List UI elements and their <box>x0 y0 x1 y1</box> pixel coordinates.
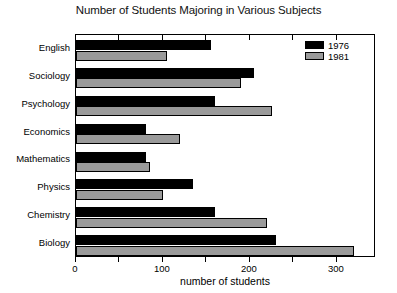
x-tick-300 <box>336 257 337 262</box>
bar-group <box>76 230 374 258</box>
bar-chart: Number of Students Majoring in Various S… <box>0 0 397 293</box>
chart-legend: 19761981 <box>305 40 371 64</box>
bar-group <box>76 147 374 175</box>
bar-group <box>76 63 374 91</box>
bar-sociology-1976 <box>76 68 254 78</box>
bar-economics-1976 <box>76 124 146 134</box>
y-label-mathematics: Mathematics <box>0 153 70 164</box>
bar-biology-1976 <box>76 235 276 245</box>
y-label-chemistry: Chemistry <box>0 209 70 220</box>
plot-area <box>75 34 375 257</box>
chart-title: Number of Students Majoring in Various S… <box>0 4 397 16</box>
legend-item-1976: 1976 <box>305 40 371 50</box>
x-tick-150 <box>205 257 206 262</box>
bar-english-1981 <box>76 51 167 61</box>
y-label-biology: Biology <box>0 237 70 248</box>
legend-swatch-1981 <box>305 52 324 60</box>
bar-group <box>76 202 374 230</box>
bar-group <box>76 174 374 202</box>
y-label-sociology: Sociology <box>0 70 70 81</box>
x-tick-top-250 <box>292 35 293 40</box>
bar-psychology-1976 <box>76 96 215 106</box>
bars-container <box>76 35 374 256</box>
bar-group <box>76 119 374 147</box>
x-tick-250 <box>292 257 293 262</box>
bar-physics-1981 <box>76 190 163 200</box>
bar-english-1976 <box>76 40 211 50</box>
x-tick-top-50 <box>118 35 119 40</box>
legend-item-1981: 1981 <box>305 51 371 61</box>
legend-swatch-1976 <box>305 41 324 49</box>
legend-label-1981: 1981 <box>328 51 349 62</box>
x-tick-100 <box>162 257 163 262</box>
bar-economics-1981 <box>76 134 180 144</box>
bar-mathematics-1976 <box>76 152 146 162</box>
x-tick-0 <box>75 257 76 262</box>
y-label-english: English <box>0 42 70 53</box>
x-tick-top-200 <box>249 35 250 40</box>
bar-mathematics-1981 <box>76 162 150 172</box>
x-tick-label-300: 300 <box>328 263 344 274</box>
bar-biology-1981 <box>76 246 354 256</box>
x-tick-200 <box>249 257 250 262</box>
x-tick-label-200: 200 <box>241 263 257 274</box>
x-axis-title: number of students <box>75 275 375 287</box>
bar-psychology-1981 <box>76 106 272 116</box>
legend-label-1976: 1976 <box>328 40 349 51</box>
x-tick-top-100 <box>162 35 163 40</box>
bar-chemistry-1976 <box>76 207 215 217</box>
bar-sociology-1981 <box>76 78 241 88</box>
x-tick-top-0 <box>75 35 76 40</box>
bar-chemistry-1981 <box>76 218 267 228</box>
y-label-physics: Physics <box>0 181 70 192</box>
y-label-psychology: Psychology <box>0 98 70 109</box>
x-tick-label-100: 100 <box>154 263 170 274</box>
x-tick-top-150 <box>205 35 206 40</box>
bar-physics-1976 <box>76 179 193 189</box>
bar-group <box>76 91 374 119</box>
x-tick-50 <box>118 257 119 262</box>
x-tick-label-0: 0 <box>72 263 77 274</box>
y-label-economics: Economics <box>0 126 70 137</box>
